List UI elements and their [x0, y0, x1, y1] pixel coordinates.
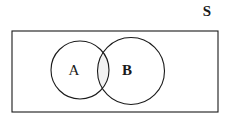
- universe-set-label: S: [203, 3, 211, 19]
- figure-background: [0, 0, 228, 122]
- venn-diagram-figure: S A B: [0, 0, 228, 122]
- set-a-label: A: [69, 62, 80, 78]
- venn-diagram-canvas: S A B: [0, 0, 228, 122]
- set-b-label: B: [122, 62, 132, 78]
